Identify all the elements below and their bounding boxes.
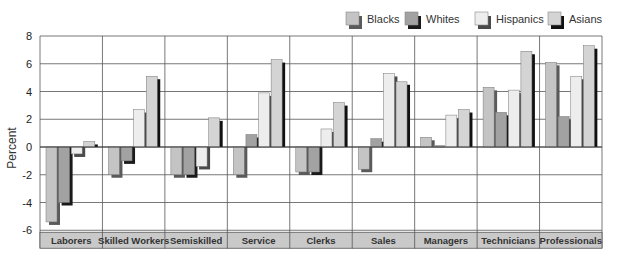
bar-chart: BlacksWhitesHispanicsAsians 86420-2-4-6 …: [0, 0, 618, 264]
y-tick-label: 4: [26, 86, 32, 98]
category-label: Clerks: [306, 235, 335, 246]
legend-item-hispanics: Hispanics: [475, 12, 544, 29]
bar-group-sales: [358, 73, 410, 172]
bar-asians: [583, 46, 594, 147]
bar-whites: [371, 139, 382, 147]
bar-asians: [84, 141, 95, 147]
bar-hispanics: [508, 90, 519, 147]
bar-asians: [396, 82, 407, 147]
bar-asians: [521, 51, 532, 147]
legend-label: Hispanics: [496, 13, 544, 25]
category-band: LaborersSkilled WorkersSemiskilledServic…: [40, 232, 602, 248]
bar-asians: [146, 76, 157, 147]
legend-item-asians: Asians: [548, 12, 603, 29]
bar-whites: [121, 147, 132, 161]
bar-hispanics: [259, 93, 270, 147]
legend-swatch: [548, 12, 561, 25]
bar-group-laborers: [46, 141, 98, 224]
y-tick-label: 6: [26, 58, 32, 70]
category-label: Skilled Workers: [98, 235, 169, 246]
bar-whites: [496, 112, 507, 147]
bar-hispanics: [321, 129, 332, 147]
bar-hispanics: [71, 147, 82, 154]
category-label: Professionals: [540, 235, 602, 246]
bar-blacks: [46, 147, 57, 222]
y-tick-label: 2: [26, 113, 32, 125]
bar-asians: [271, 60, 282, 147]
category-label: Sales: [371, 235, 396, 246]
bar-blacks: [108, 147, 119, 175]
bar-group-semiskilled: [171, 118, 223, 178]
y-axis-ticks: 86420-2-4-6: [22, 30, 32, 236]
bar-asians: [209, 118, 220, 147]
y-tick-label: -6: [22, 224, 32, 236]
y-tick-label: -4: [22, 197, 32, 209]
category-label: Laborers: [51, 235, 92, 246]
bar-whites: [558, 116, 569, 147]
legend-label: Asians: [569, 13, 603, 25]
bar-whites: [59, 147, 70, 203]
bars: [40, 46, 602, 225]
y-tick-label: -2: [22, 169, 32, 181]
bar-whites: [246, 135, 257, 147]
bar-group-service: [233, 60, 285, 178]
legend-label: Blacks: [367, 13, 400, 25]
bar-whites: [308, 147, 319, 172]
bar-group-clerks: [296, 103, 348, 175]
bar-group-professionals: [546, 46, 598, 147]
y-axis-title: Percent: [5, 127, 19, 169]
bar-blacks: [546, 62, 557, 147]
bar-asians: [458, 110, 469, 147]
bar-asians: [334, 103, 345, 147]
bar-hispanics: [196, 147, 207, 166]
bar-hispanics: [134, 110, 145, 147]
category-label: Technicians: [481, 235, 535, 246]
category-label: Managers: [424, 235, 468, 246]
legend-swatch: [475, 12, 488, 25]
bar-blacks: [358, 147, 369, 169]
bar-group-managers: [421, 110, 473, 148]
y-tick-label: 0: [26, 141, 32, 153]
bar-blacks: [233, 147, 244, 175]
legend-swatch: [346, 12, 359, 25]
bar-blacks: [296, 147, 307, 172]
bar-blacks: [421, 137, 432, 147]
bar-group-technicians: [483, 51, 535, 147]
legend: BlacksWhitesHispanicsAsians: [346, 12, 603, 29]
bar-hispanics: [571, 76, 582, 147]
y-tick-label: 8: [26, 30, 32, 42]
legend-label: Whites: [426, 13, 460, 25]
category-label: Semiskilled: [170, 235, 222, 246]
bar-blacks: [483, 87, 494, 147]
bar-hispanics: [383, 73, 394, 147]
bar-whites: [183, 147, 194, 175]
legend-item-blacks: Blacks: [346, 12, 400, 29]
bar-hispanics: [446, 115, 457, 147]
legend-item-whites: Whites: [405, 12, 460, 29]
bar-blacks: [171, 147, 182, 175]
category-label: Service: [242, 235, 276, 246]
legend-swatch: [405, 12, 418, 25]
